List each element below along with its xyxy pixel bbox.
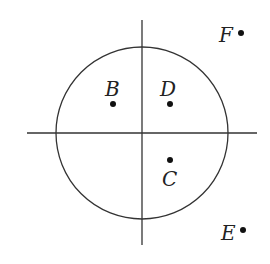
point-b-label: B <box>104 77 120 101</box>
point-f: F <box>218 23 244 47</box>
point-c-label: C <box>162 167 177 191</box>
point-f-label: F <box>218 23 234 47</box>
point-e-label: E <box>220 221 236 245</box>
point-e: E <box>220 221 246 245</box>
coordinate-diagram: B D C F E <box>0 0 270 264</box>
point-b: B <box>104 77 120 107</box>
point-c: C <box>162 157 177 191</box>
point-d-label: D <box>159 77 176 101</box>
point-d: D <box>159 77 176 107</box>
